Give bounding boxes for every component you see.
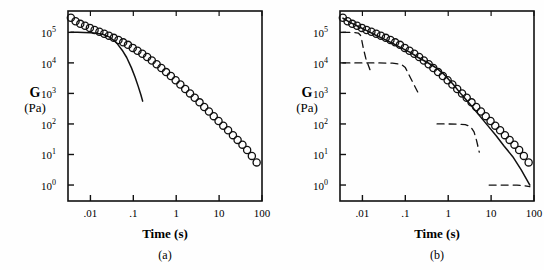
maxwell-sum-curve-b [343,18,530,185]
y-tick-label-a-2: 102 [26,117,56,131]
data-point-a-18 [153,61,160,68]
y-tick-label-b-4: 104 [298,56,328,70]
y-tick-label-b-1: 101 [298,147,328,161]
x-tick-label-b-1: .1 [390,207,420,219]
x-tick-label-a-1: .1 [118,207,148,219]
plot-frame-b [340,11,534,201]
data-point-a-20 [162,68,169,75]
figure-root: G (Pa) .01.1110100 100101102103104105 Ti… [0,0,544,270]
data-point-a-39 [253,159,260,166]
y-tick-label-a-5: 105 [26,25,56,39]
x-tick-label-a-3: 10 [204,207,234,219]
y-tick-label-a-3: 103 [26,86,56,100]
maxwell-mode-5-dashed [489,185,530,187]
maxwell-mode-2-dashed [343,32,370,69]
panel-a: G (Pa) .01.1110100 100101102103104105 Ti… [0,0,272,270]
data-points-a [67,14,260,166]
y-tick-label-b-2: 102 [298,117,328,131]
data-point-a-21 [167,72,174,79]
x-tick-label-a-0: .01 [75,207,105,219]
data-point-a-25 [186,90,193,97]
y-tick-label-a-0: 100 [26,178,56,192]
y-tick-label-b-0: 100 [298,178,328,192]
maxwell-single-mode-curve-a [71,32,143,101]
panel-b: G (Pa) .01.1110100 100101102103104105 Ti… [272,0,544,270]
x-tick-label-b-0: .01 [347,207,377,219]
panel-caption-a: (a) [68,248,262,263]
axis-ticks-a [68,11,262,201]
frame-rect-b [340,11,534,201]
x-tick-label-b-2: 1 [433,207,463,219]
x-tick-label-a-2: 1 [161,207,191,219]
maxwell-modes-dashed-b [343,32,530,186]
data-point-a-19 [158,64,165,71]
data-point-b-38 [520,152,527,159]
y-tick-label-a-4: 104 [26,56,56,70]
frame-rect-a [68,11,262,201]
x-axis-title-a: Time (s) [68,226,262,242]
plot-frame-a [68,11,262,201]
data-points-b [339,14,532,166]
y-tick-label-a-1: 101 [26,147,56,161]
y-tick-label-b-3: 103 [298,86,328,100]
maxwell-mode-4-dashed [437,124,479,152]
y-tick-label-b-5: 105 [298,25,328,39]
maxwell-mode-3-dashed [343,63,420,96]
x-tick-label-b-3: 10 [476,207,506,219]
single-maxwell-fit-line [71,32,143,101]
generalized-maxwell-fit-line [343,18,530,185]
data-point-a-22 [172,77,179,84]
panel-caption-b: (b) [340,248,534,263]
data-point-a-38 [248,152,255,159]
axis-ticks-b [340,11,534,201]
x-axis-title-b: Time (s) [340,226,534,242]
data-point-b-39 [525,159,532,166]
x-tick-label-b-4: 100 [519,207,544,219]
